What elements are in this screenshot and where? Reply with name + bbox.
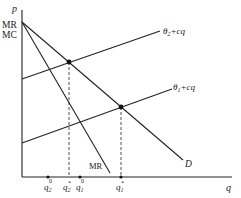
tick-label-q1-star-sup: * (121, 180, 124, 186)
tick-label-q1-0-sup: 0 (81, 178, 84, 184)
theta2-cost-line (22, 31, 160, 79)
mr-intercept-label: MR (2, 20, 17, 30)
tick-label-q2-0-sup: 0 (49, 178, 52, 184)
mr-label: MR (89, 161, 103, 171)
theta2-line-label: θ2+cq (163, 26, 185, 37)
tick-q1-star (119, 175, 122, 178)
marginal-revenue-curve (22, 22, 110, 173)
demand-curve (22, 22, 183, 160)
theta1-line-label: θ1+cq (173, 82, 195, 93)
y-axis-label: p (11, 3, 17, 14)
demand-label: D (184, 159, 192, 169)
theta1-cost-line (22, 89, 172, 143)
x-axis-label: q (226, 182, 231, 193)
equilibrium-point-2 (67, 60, 72, 65)
economics-diagram: p q MR MC θ2+cq θ1+cq D MR q2 0 q2 * q1 … (0, 0, 241, 198)
mc-intercept-label: MC (2, 30, 17, 40)
tick-label-q2-star-sup: * (68, 180, 71, 186)
equilibrium-point-1 (119, 105, 124, 110)
